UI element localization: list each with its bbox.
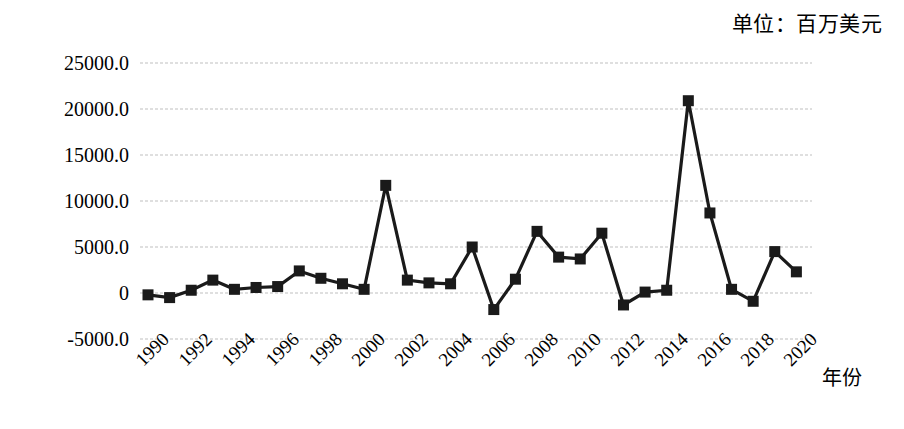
- data-point-marker: [510, 274, 521, 285]
- y-axis-tick-label: 10000.0: [64, 191, 129, 211]
- data-point-marker: [445, 278, 456, 289]
- data-point-marker: [683, 95, 694, 106]
- data-point-marker: [423, 277, 434, 288]
- data-point-marker: [251, 282, 262, 293]
- data-point-marker: [229, 284, 240, 295]
- data-point-marker: [467, 242, 478, 253]
- data-point-marker: [661, 285, 672, 296]
- y-axis-tick-label: 15000.0: [64, 145, 129, 165]
- data-point-marker: [207, 275, 218, 286]
- y-axis-tick-label: 5000.0: [74, 237, 129, 257]
- data-point-marker: [337, 278, 348, 289]
- data-point-marker: [596, 228, 607, 239]
- data-point-marker: [186, 285, 197, 296]
- data-point-markers: [143, 95, 802, 315]
- data-point-marker: [315, 273, 326, 284]
- y-axis-tick-label: 0: [119, 283, 129, 303]
- data-point-marker: [402, 275, 413, 286]
- data-point-marker: [488, 304, 499, 315]
- data-point-marker: [272, 281, 283, 292]
- data-point-marker: [618, 299, 629, 310]
- data-point-marker: [143, 289, 154, 300]
- y-axis-tick-label: 25000.0: [64, 53, 129, 73]
- data-point-marker: [748, 296, 759, 307]
- data-series-line: [148, 101, 796, 310]
- data-point-marker: [532, 226, 543, 237]
- data-point-marker: [769, 246, 780, 257]
- data-point-marker: [380, 180, 391, 191]
- data-point-marker: [359, 284, 370, 295]
- data-point-marker: [640, 287, 651, 298]
- data-point-marker: [294, 265, 305, 276]
- x-axis-title: 年份: [822, 368, 862, 388]
- data-point-marker: [791, 266, 802, 277]
- y-axis-tick-label: 20000.0: [64, 99, 129, 119]
- data-point-marker: [704, 207, 715, 218]
- data-point-marker: [575, 253, 586, 264]
- data-point-marker: [553, 252, 564, 263]
- chart-container: 单位：百万美元 25000.020000.015000.010000.05000…: [0, 0, 904, 429]
- gridlines-group: [140, 63, 812, 339]
- data-point-marker: [164, 292, 175, 303]
- y-axis-tick-label: -5000.0: [67, 329, 129, 349]
- data-point-marker: [726, 284, 737, 295]
